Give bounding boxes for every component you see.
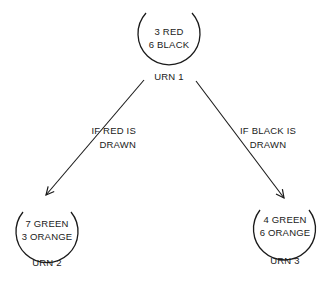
urn-2-label: URN 2 bbox=[32, 257, 62, 268]
arrow-red-drawn: IF RED IS DRAWN bbox=[46, 80, 144, 195]
urn-3: 4 GREEN 6 ORANGE URN 3 bbox=[254, 210, 316, 266]
urn-2-contents-line2: 3 ORANGE bbox=[22, 231, 73, 242]
arrow-red-label-line1: IF RED IS bbox=[91, 125, 136, 136]
urn-3-contents-line1: 4 GREEN bbox=[263, 214, 306, 225]
urn-1-contents-line1: 3 RED bbox=[155, 26, 184, 37]
arrow-black-label-line2: DRAWN bbox=[250, 139, 287, 150]
urn-3-contents-line2: 6 ORANGE bbox=[260, 227, 311, 238]
arrow-red-label-line2: DRAWN bbox=[99, 139, 136, 150]
arrow-black-drawn: IF BLACK IS DRAWN bbox=[196, 81, 296, 198]
arrow-left-icon bbox=[46, 80, 144, 195]
urn-2: 7 GREEN 3 ORANGE URN 2 bbox=[16, 212, 78, 268]
urn-3-label: URN 3 bbox=[270, 255, 300, 266]
arrow-black-label-line1: IF BLACK IS bbox=[240, 125, 296, 136]
urn-probability-diagram: 3 RED 6 BLACK URN 1 IF RED IS DRAWN IF B… bbox=[0, 0, 333, 289]
urn-1: 3 RED 6 BLACK URN 1 bbox=[138, 13, 200, 82]
urn-1-contents-line2: 6 BLACK bbox=[149, 39, 190, 50]
urn-2-contents-line1: 7 GREEN bbox=[25, 218, 68, 229]
urn-1-label: URN 1 bbox=[154, 71, 184, 82]
